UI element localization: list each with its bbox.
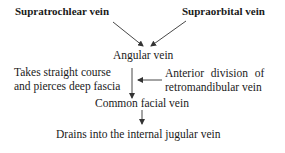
supraorbital-vein-label: Supraorbital vein (182, 5, 265, 18)
supratrochlear-vein-label: Supratrochlear vein (15, 5, 109, 18)
retromandibular-vein-label: retromandibular vein (165, 81, 262, 94)
takes-straight-course-label: Takes straight course (14, 66, 111, 79)
common-facial-vein-label: Common facial vein (95, 97, 189, 110)
anterior-division-label: Anterior division of (165, 67, 264, 80)
arrow-supraorbital-to-angular (151, 21, 186, 46)
pierces-deep-fascia-label: and pierces deep fascia (14, 80, 120, 93)
arrow-supratrochlear-to-angular (113, 22, 143, 46)
internal-jugular-vein-label: Drains into the internal jugular vein (56, 128, 220, 141)
angular-vein-label: Angular vein (113, 49, 173, 62)
